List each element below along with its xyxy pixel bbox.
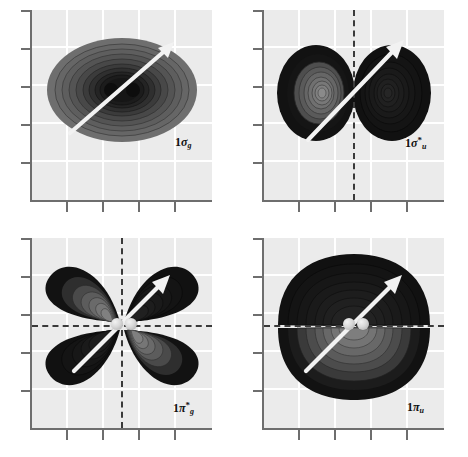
- nodal-plane-vertical: [353, 10, 355, 200]
- y-axis-tick: [21, 162, 30, 164]
- y-axis-tick: [21, 86, 30, 88]
- x-axis-tick: [334, 430, 336, 440]
- y-axis-tick: [21, 10, 30, 12]
- panel-pi-u: 1πu: [246, 234, 458, 446]
- orbital-contour-sigma-g: [32, 10, 212, 200]
- y-axis-tick: [21, 390, 30, 392]
- molecular-orbital-figure: 1σg: [0, 0, 468, 457]
- y-axis-tick: [253, 124, 262, 126]
- x-axis-tick: [298, 202, 300, 212]
- y-axis-tick: [253, 162, 262, 164]
- x-axis-line: [262, 200, 444, 202]
- y-axis-tick: [253, 10, 262, 12]
- y-axis-tick: [253, 352, 262, 354]
- x-axis-tick: [370, 202, 372, 212]
- x-axis-tick: [298, 430, 300, 440]
- x-axis-tick: [406, 202, 408, 212]
- x-axis-line: [262, 428, 444, 430]
- x-axis-tick: [66, 430, 68, 440]
- panel-sigma-g: 1σg: [14, 6, 226, 218]
- x-axis-line: [30, 428, 212, 430]
- x-axis-tick: [406, 430, 408, 440]
- y-axis-tick: [253, 238, 262, 240]
- x-axis-tick: [334, 202, 336, 212]
- nucleus-marker: [357, 318, 369, 330]
- orbital-label-pi-u: 1πu: [407, 400, 424, 415]
- y-axis-tick: [253, 314, 262, 316]
- x-axis-tick: [138, 202, 140, 212]
- plot-area: [264, 10, 444, 200]
- y-axis-tick: [21, 314, 30, 316]
- orbital-label-sigma-u-star: 1σ*u: [405, 135, 426, 151]
- y-axis-tick: [253, 86, 262, 88]
- y-axis-tick: [253, 390, 262, 392]
- x-axis-tick: [174, 202, 176, 212]
- panel-pi-g-star: 1π*g: [14, 234, 226, 446]
- x-axis-tick: [174, 430, 176, 440]
- plot-area: [32, 10, 212, 200]
- panel-sigma-u-star: 1σ*u: [246, 6, 458, 218]
- orbital-label-sigma-g: 1σg: [175, 135, 191, 150]
- x-axis-line: [30, 200, 212, 202]
- x-axis-tick: [370, 430, 372, 440]
- nucleus-marker: [111, 318, 123, 330]
- y-axis-tick: [253, 48, 262, 50]
- x-axis-tick: [138, 430, 140, 440]
- x-axis-tick: [66, 202, 68, 212]
- y-axis-tick: [21, 124, 30, 126]
- nucleus-marker: [125, 318, 137, 330]
- y-axis-tick: [21, 48, 30, 50]
- orbital-label-pi-g-star: 1π*g: [173, 400, 194, 416]
- y-axis-tick: [253, 276, 262, 278]
- y-axis-tick: [21, 238, 30, 240]
- y-axis-tick: [21, 276, 30, 278]
- x-axis-tick: [102, 202, 104, 212]
- x-axis-tick: [102, 430, 104, 440]
- nodal-plane-vertical: [121, 238, 123, 428]
- nucleus-marker: [343, 318, 355, 330]
- y-axis-tick: [21, 352, 30, 354]
